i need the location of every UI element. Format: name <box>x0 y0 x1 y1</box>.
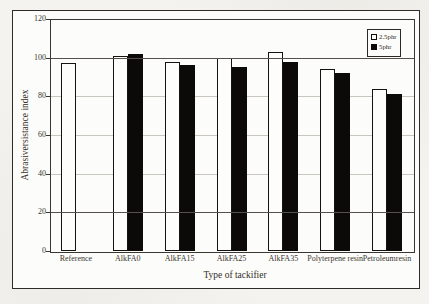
x-label-alkfa0: AlkFA0 <box>100 254 156 263</box>
bar-petroleumresin-2.5phr <box>372 89 387 251</box>
bar-alkfa35-2.5phr <box>268 52 283 251</box>
bar-polyterpene-resin-5phr <box>335 73 350 251</box>
bar-polyterpene-resin-2.5phr <box>320 69 335 251</box>
y-tick-60 <box>46 135 50 136</box>
y-tick-label-120: 120 <box>18 14 46 24</box>
y-tick-label-0: 0 <box>18 246 46 256</box>
y-tick-20 <box>46 212 50 213</box>
y-tick-120 <box>46 19 50 20</box>
bar-alkfa35-5phr <box>283 62 298 251</box>
legend-label-2-5phr: 2.5phr <box>379 33 397 40</box>
bar-alkfa15-5phr <box>180 65 195 251</box>
legend: 2.5phr 5phr <box>367 29 401 57</box>
x-label-alkfa25: AlkFA25 <box>204 254 260 263</box>
legend-item-5phr: 5phr <box>371 43 400 50</box>
bar-alkfa0-5phr <box>128 54 143 251</box>
scanned-chart-page: { "chart_data": { "type": "bar", "title"… <box>0 0 429 304</box>
x-label-petroleumresin: Petroleumresin <box>357 254 417 263</box>
bar-alkfa0-2.5phr <box>113 56 128 251</box>
x-label-alkfa35: AlkFA35 <box>255 254 311 263</box>
legend-item-2-5phr: 2.5phr <box>371 33 400 40</box>
bar-alkfa25-5phr <box>232 67 247 251</box>
y-tick-40 <box>46 174 50 175</box>
solid-square-marker-icon <box>371 44 377 50</box>
x-label-polyterpene-resin: Polyterpene resin <box>307 254 363 263</box>
gridline-20 <box>51 212 414 213</box>
y-tick-label-100: 100 <box>18 53 46 63</box>
y-tick-80 <box>46 96 50 97</box>
bar-petroleumresin-5phr <box>387 94 402 251</box>
open-square-marker-icon <box>371 34 377 40</box>
x-axis-title: Type of tackifier <box>135 270 335 280</box>
y-axis-label: Abrasiversistance index <box>20 89 30 180</box>
legend-label-5phr: 5phr <box>379 43 391 50</box>
x-label-reference: Reference <box>48 254 104 263</box>
bar-alkfa15-2.5phr <box>165 62 180 251</box>
bar-reference-2.5phr <box>61 63 76 251</box>
y-tick-0 <box>46 251 50 252</box>
bar-alkfa25-2.5phr <box>217 58 232 251</box>
y-tick-label-20: 20 <box>18 207 46 217</box>
gridline-100 <box>51 58 414 59</box>
y-tick-100 <box>46 58 50 59</box>
x-label-alkfa15: AlkFA15 <box>152 254 208 263</box>
